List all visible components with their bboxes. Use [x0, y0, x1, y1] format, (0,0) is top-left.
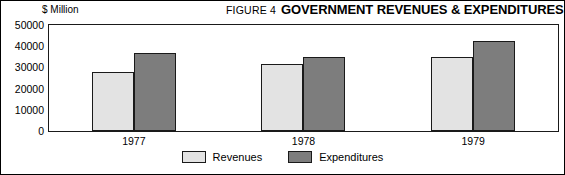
y-axis-tick-label: 50000 — [15, 20, 44, 31]
bar-expenditures-1978 — [303, 57, 345, 131]
figure-container: $ Million FIGURE 4 GOVERNMENT REVENUES &… — [0, 0, 565, 175]
bar-revenues-1978 — [261, 64, 303, 131]
chart-title: GOVERNMENT REVENUES & EXPENDITURES — [281, 2, 564, 17]
bar-revenues-1979 — [431, 57, 473, 131]
y-axis-tick-label: 10000 — [15, 104, 44, 115]
legend-swatch-icon — [288, 151, 312, 163]
chart-legend: RevenuesExpenditures — [1, 151, 564, 163]
bar-group: 1977 — [49, 25, 219, 131]
bar-revenues-1977 — [92, 72, 134, 131]
plot-area: 01000020000300004000050000197719781979 — [48, 24, 559, 132]
bar-expenditures-1979 — [473, 41, 515, 131]
y-axis-unit-label: $ Million — [42, 4, 79, 16]
x-axis-tick-label: 1978 — [292, 135, 315, 147]
y-axis-tick-label: 0 — [38, 126, 44, 137]
bar-group: 1979 — [388, 25, 558, 131]
legend-label: Revenues — [213, 151, 263, 163]
y-axis-tick-label: 20000 — [15, 83, 44, 94]
y-axis-tick-label: 40000 — [15, 41, 44, 52]
plot-inner: 01000020000300004000050000197719781979 — [49, 25, 558, 131]
bar-expenditures-1977 — [134, 53, 176, 131]
x-axis-tick-label: 1979 — [461, 135, 484, 147]
bar-group: 1978 — [219, 25, 389, 131]
legend-item-revenues: Revenues — [182, 151, 263, 163]
x-axis-tick-label: 1977 — [122, 135, 145, 147]
y-axis-tick-label: 30000 — [15, 62, 44, 73]
figure-number-label: FIGURE 4 — [226, 4, 276, 17]
legend-item-expenditures: Expenditures — [288, 151, 383, 163]
legend-swatch-icon — [182, 151, 206, 163]
legend-label: Expenditures — [319, 151, 383, 163]
